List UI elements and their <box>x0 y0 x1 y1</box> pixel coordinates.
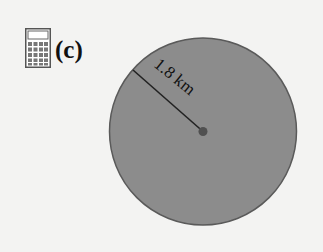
center-dot <box>199 127 208 136</box>
circle-diagram: 1.8 km <box>0 0 323 252</box>
